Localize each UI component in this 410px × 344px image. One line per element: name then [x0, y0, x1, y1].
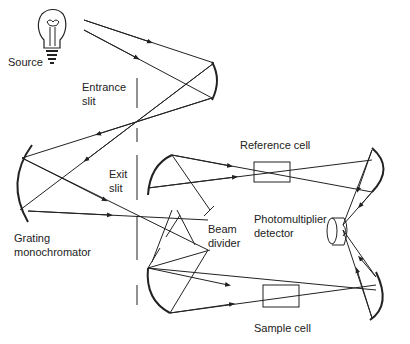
- label-exit-2: slit: [109, 182, 122, 195]
- optical-diagram: [0, 0, 410, 344]
- label-reference-cell: Reference cell: [240, 139, 310, 152]
- label-grating-2: monochromator: [14, 246, 91, 259]
- light-bulb-icon: [38, 10, 65, 64]
- label-pmt-1: Photomultiplier: [254, 213, 327, 226]
- label-sample-cell: Sample cell: [254, 322, 311, 335]
- sample-right-mirror: [370, 272, 383, 320]
- label-exit-1: Exit: [109, 168, 127, 181]
- grating-mirror: [17, 145, 32, 222]
- label-beam-1: Beam: [208, 223, 237, 236]
- reference-left-mirror: [148, 155, 172, 195]
- label-beam-2: divider: [208, 237, 240, 250]
- label-entrance-1: Entrance: [82, 81, 126, 94]
- label-source: Source: [8, 56, 43, 69]
- label-pmt-2: detector: [254, 227, 294, 240]
- sample-left-mirror: [148, 268, 170, 313]
- label-entrance-2: slit: [82, 95, 95, 108]
- collimating-mirror: [212, 62, 217, 100]
- label-grating-1: Grating: [14, 232, 50, 245]
- reference-right-mirror: [372, 148, 384, 192]
